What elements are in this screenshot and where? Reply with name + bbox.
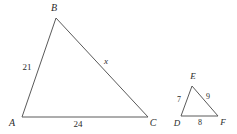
side-length-de: 7 <box>177 96 181 104</box>
vertex-label-c: C <box>150 118 157 128</box>
triangles-canvas <box>0 0 237 134</box>
side-length-df: 8 <box>198 119 202 127</box>
geometry-figure: A B C 21 x 24 D E F 7 9 8 <box>0 0 237 134</box>
triangle-abc-outline <box>22 18 148 117</box>
side-length-ef: 9 <box>206 93 210 101</box>
side-length-ac: 24 <box>74 120 83 129</box>
side-length-ab: 21 <box>23 63 32 72</box>
side-length-bc-unknown: x <box>104 57 108 66</box>
vertex-label-d: D <box>174 119 181 128</box>
vertex-label-e: E <box>190 72 196 81</box>
triangle-def-outline <box>181 86 218 116</box>
vertex-label-a: A <box>9 118 15 128</box>
vertex-label-b: B <box>51 3 57 13</box>
vertex-label-f: F <box>220 118 226 127</box>
